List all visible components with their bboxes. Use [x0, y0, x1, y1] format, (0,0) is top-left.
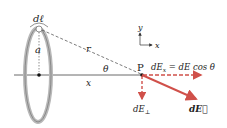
- ring-center: [37, 73, 41, 77]
- label-dEperp: dE⊥: [133, 104, 150, 115]
- label-dl: dℓ: [33, 13, 44, 24]
- label-theta: θ: [103, 64, 109, 74]
- ring-field-diagram: dℓ a r θ x P y x dEx = dE cos θ dE⊥ dE⃗: [0, 0, 227, 128]
- coordinate-axes: y x: [137, 23, 160, 50]
- label-a: a: [35, 44, 41, 55]
- label-dE-vector: dE⃗: [189, 104, 208, 114]
- axis-label-x: x: [155, 41, 160, 50]
- label-r: r: [86, 43, 92, 54]
- label-p: P: [137, 62, 144, 73]
- label-dEx: dEx = dE cos θ: [151, 62, 215, 73]
- r-line: [42, 30, 141, 74]
- label-x-distance: x: [86, 78, 91, 88]
- axis-label-y: y: [137, 23, 143, 32]
- dE-vector-arrow: [142, 75, 196, 99]
- dl-element: [36, 26, 42, 32]
